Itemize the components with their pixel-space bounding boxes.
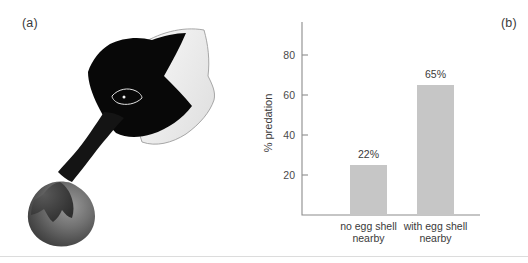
panel-a-illustration: (a) <box>0 0 248 255</box>
figure-container: (a) <box>0 0 528 263</box>
category-label-1-line2: nearby <box>352 232 385 244</box>
gull-illustration-svg <box>0 0 248 255</box>
bar-value-label-2: 65% <box>425 68 446 80</box>
category-label-2-line1: with egg shell <box>403 220 468 232</box>
y-axis-title: % predation <box>262 94 274 153</box>
bottom-divider-rule <box>0 256 528 257</box>
ytick-label-80: 80 <box>283 49 295 61</box>
bar-no-egg-shell-nearby[interactable] <box>350 165 387 215</box>
bar-with-egg-shell-nearby[interactable] <box>417 85 454 215</box>
ytick-label-40: 40 <box>283 129 295 141</box>
bar-value-label-1: 22% <box>358 148 379 160</box>
category-label-2-line2: nearby <box>419 232 452 244</box>
ytick-label-60: 60 <box>283 89 295 101</box>
bar-chart-svg: 80 60 40 20 % predation 22% 65% no egg s… <box>248 0 528 255</box>
gull-eye-highlight-icon <box>123 96 126 99</box>
category-label-1-line1: no egg shell <box>340 220 397 232</box>
ytick-label-20: 20 <box>283 169 295 181</box>
gull-bill-shape <box>58 112 124 182</box>
panel-b-chart: (b) 80 60 40 20 % predation 22% 65% <box>248 0 528 255</box>
